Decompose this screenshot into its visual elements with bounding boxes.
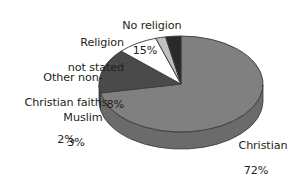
- pie-label-religion-not-stated-line1: Religion: [80, 36, 124, 49]
- pie-label-christian: Christian 72%: [213, 128, 299, 174]
- pie-label-muslim-name: Muslim: [63, 111, 102, 124]
- pie-label-no-religion-name: No religion: [122, 19, 181, 32]
- pie-label-muslim: Muslim 3%: [30, 100, 122, 174]
- pie-label-other-non-christian-line1: Other non-: [43, 71, 102, 84]
- pie-label-christian-percent: 72%: [213, 165, 299, 174]
- pie-chart: No religion 15% Religion not stated 8% O…: [0, 0, 303, 174]
- pie-label-muslim-percent: 3%: [30, 137, 122, 149]
- pie-label-christian-name: Christian: [238, 139, 287, 152]
